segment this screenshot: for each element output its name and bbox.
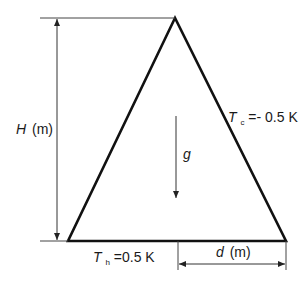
diagram-canvas: H (m) g T c =- 0.5 K T h =0.5 K d (m)	[0, 0, 304, 281]
cold-wall-label: T c =- 0.5 K	[228, 109, 298, 128]
hot-wall-label: T h =0.5 K	[93, 249, 155, 268]
triangle-cavity	[68, 18, 286, 241]
gravity-label: g	[183, 146, 191, 162]
width-label: d (m)	[216, 244, 251, 260]
height-label: H (m)	[16, 121, 53, 137]
